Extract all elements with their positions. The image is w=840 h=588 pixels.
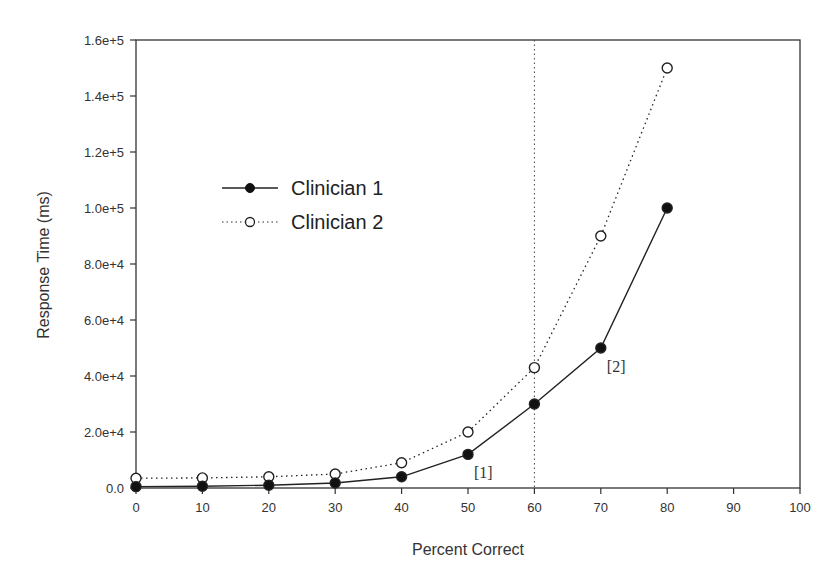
y-tick-label: 1.0e+5 [84, 201, 124, 216]
open-circle-marker [662, 63, 672, 73]
filled-circle-marker [596, 343, 606, 353]
legend: Clinician 1 Clinician 2 [222, 177, 383, 233]
series-layer [131, 63, 672, 492]
legend-label-clinician-1: Clinician 1 [291, 177, 383, 199]
annotations: [1][2] [474, 358, 625, 481]
series-line [136, 68, 667, 478]
x-tick-label: 80 [660, 500, 674, 515]
x-tick-label: 70 [594, 500, 608, 515]
y-tick-label: 2.0e+4 [84, 425, 124, 440]
x-tick-label: 100 [789, 500, 811, 515]
x-tick-label: 0 [132, 500, 139, 515]
annotation-label: [1] [474, 464, 493, 481]
x-tick-label: 30 [328, 500, 342, 515]
annotation-label: [2] [607, 358, 626, 375]
legend-item-clinician-1: Clinician 1 [222, 177, 383, 199]
open-circle-marker-icon [246, 218, 255, 227]
open-circle-marker [529, 363, 539, 373]
filled-circle-marker [131, 482, 141, 492]
series-clinician-2 [131, 63, 672, 483]
open-circle-marker [463, 427, 473, 437]
filled-circle-marker [529, 399, 539, 409]
y-tick-label: 6.0e+4 [84, 313, 124, 328]
open-circle-marker [397, 458, 407, 468]
filled-circle-marker [397, 472, 407, 482]
filled-circle-marker-icon [246, 184, 255, 193]
filled-circle-marker [330, 478, 340, 488]
y-tick-label: 8.0e+4 [84, 257, 124, 272]
x-tick-label: 60 [527, 500, 541, 515]
series-line [136, 208, 667, 487]
filled-circle-marker [662, 203, 672, 213]
filled-circle-marker [264, 480, 274, 490]
x-axis-title: Percent Correct [412, 541, 525, 558]
y-tick-label: 1.4e+5 [84, 89, 124, 104]
x-tick-label: 40 [394, 500, 408, 515]
x-tick-label: 50 [461, 500, 475, 515]
open-circle-marker [596, 231, 606, 241]
x-tick-label: 20 [262, 500, 276, 515]
x-tick-label: 10 [195, 500, 209, 515]
legend-label-clinician-2: Clinician 2 [291, 211, 383, 233]
y-axis: 0.02.0e+44.0e+46.0e+48.0e+41.0e+51.2e+51… [84, 33, 136, 496]
filled-circle-marker [463, 449, 473, 459]
y-tick-label: 0.0 [106, 481, 124, 496]
y-axis-title: Response Time (ms) [35, 191, 52, 339]
x-axis: 0102030405060708090100 [132, 488, 810, 515]
y-tick-label: 1.6e+5 [84, 33, 124, 48]
x-tick-label: 90 [726, 500, 740, 515]
plot-frame [136, 40, 800, 488]
y-tick-label: 1.2e+5 [84, 145, 124, 160]
series-clinician-1 [131, 203, 672, 492]
line-chart: 0102030405060708090100 0.02.0e+44.0e+46.… [0, 0, 840, 588]
y-tick-label: 4.0e+4 [84, 369, 124, 384]
legend-item-clinician-2: Clinician 2 [222, 211, 383, 233]
filled-circle-marker [197, 481, 207, 491]
